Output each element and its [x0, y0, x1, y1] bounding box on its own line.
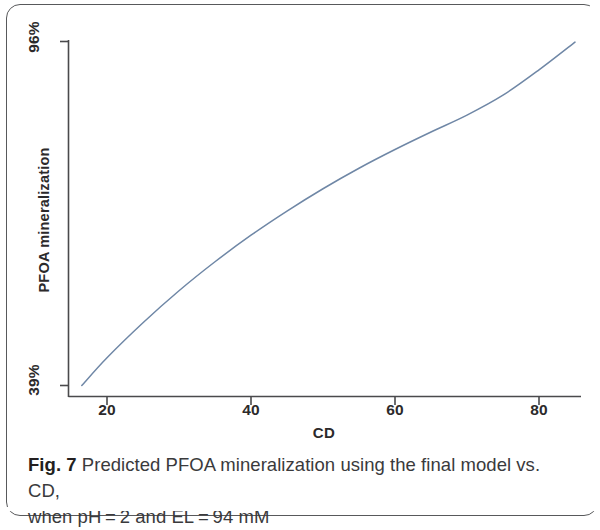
figure-caption-line1: Predicted PFOA mineralization using the …: [28, 454, 540, 501]
data-series-line: [82, 42, 575, 385]
x-tick-label-80: 80: [530, 401, 548, 419]
chart-svg: [0, 0, 600, 446]
frame-edge-mask-bottom: [0, 507, 600, 511]
x-tick-label-60: 60: [386, 401, 404, 419]
y-tick-label-39: 39%: [25, 364, 43, 396]
frame-edge-mask-right: [590, 0, 600, 511]
y-axis-title: PFOA mineralization: [36, 120, 52, 320]
figure-caption-label: Fig. 7: [28, 454, 77, 475]
x-axis-title: CD: [313, 424, 335, 441]
x-tick-label-20: 20: [98, 401, 116, 419]
x-tick-label-40: 40: [242, 401, 260, 419]
figure-caption: Fig. 7 Predicted PFOA mineralization usi…: [28, 452, 576, 530]
chart-plot-area: 20 40 60 80 96% 39% CD PFOA mineralizati…: [0, 0, 600, 446]
y-tick-label-96: 96%: [25, 21, 43, 53]
